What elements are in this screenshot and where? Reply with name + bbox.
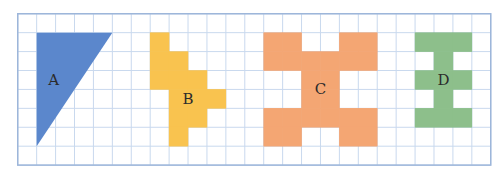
grid-diagram: ABCD [17,13,492,166]
shape-d: D [415,32,472,127]
shape-label-a: A [47,71,59,89]
shape-label-d: D [437,71,449,89]
shape-label-c: C [315,80,326,98]
shape-label-b: B [183,90,194,108]
